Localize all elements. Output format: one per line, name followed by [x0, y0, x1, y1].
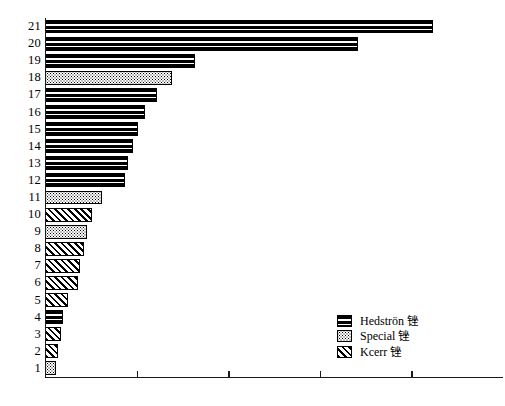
bar-17 — [45, 88, 157, 102]
bar-3 — [45, 327, 61, 341]
legend-swatch-diagonal-hatch-icon — [337, 346, 352, 358]
x-tick-1 — [137, 371, 138, 378]
y-tick-label-8: 8 — [1, 242, 41, 255]
bar-11 — [45, 191, 102, 205]
bar-row — [45, 293, 503, 308]
legend-item-2[interactable]: Special 锉 — [337, 329, 487, 345]
y-axis-line — [45, 18, 46, 378]
y-tick-label-16: 16 — [1, 106, 41, 119]
bar-row — [45, 104, 503, 119]
y-tick-label-10: 10 — [1, 208, 41, 221]
bar-row — [45, 70, 503, 85]
bar-row — [45, 241, 503, 256]
bar-row — [45, 258, 503, 273]
bar-row — [45, 19, 503, 34]
bar-row — [45, 361, 503, 376]
y-tick-label-7: 7 — [1, 259, 41, 272]
bar-5 — [45, 293, 68, 307]
y-tick-label-3: 3 — [1, 328, 41, 341]
x-axis-line — [45, 377, 503, 378]
bar-9 — [45, 225, 87, 239]
y-tick-label-1: 1 — [1, 362, 41, 375]
y-axis-tick-labels: 212019181716151413121110987654321 — [0, 18, 41, 377]
bar-2 — [45, 344, 58, 358]
bar-6 — [45, 276, 78, 290]
bar-16 — [45, 105, 145, 119]
y-tick-label-2: 2 — [1, 345, 41, 358]
y-tick-label-18: 18 — [1, 71, 41, 84]
bar-row — [45, 173, 503, 188]
x-tick-4 — [411, 371, 412, 378]
bar-4 — [45, 310, 63, 324]
legend-item-3[interactable]: Kcerr 锉 — [337, 344, 487, 360]
bar-row — [45, 87, 503, 102]
bar-14 — [45, 139, 133, 153]
bar-8 — [45, 242, 84, 256]
legend-swatch-stipple-icon — [337, 330, 352, 342]
y-tick-label-6: 6 — [1, 276, 41, 289]
y-tick-label-5: 5 — [1, 294, 41, 307]
y-tick-label-13: 13 — [1, 157, 41, 170]
bar-15 — [45, 122, 138, 136]
bar-row — [45, 224, 503, 239]
legend-label: Kcerr 锉 — [360, 345, 401, 359]
y-tick-label-15: 15 — [1, 123, 41, 136]
x-tick-2 — [228, 371, 229, 378]
y-tick-label-20: 20 — [1, 37, 41, 50]
bar-chart: 212019181716151413121110987654321 Hedstr… — [0, 0, 505, 406]
y-tick-label-9: 9 — [1, 225, 41, 238]
y-tick-label-4: 4 — [1, 311, 41, 324]
bar-19 — [45, 54, 195, 68]
bar-row — [45, 275, 503, 290]
bar-row — [45, 156, 503, 171]
x-tick-0 — [45, 371, 46, 378]
x-tick-3 — [320, 371, 321, 378]
bar-21 — [45, 20, 433, 34]
bar-row — [45, 190, 503, 205]
bar-10 — [45, 208, 92, 222]
bar-20 — [45, 37, 358, 51]
bar-row — [45, 53, 503, 68]
bar-row — [45, 207, 503, 222]
legend-item-1[interactable]: Hedströn 锉 — [337, 313, 487, 329]
bar-18 — [45, 71, 172, 85]
bar-row — [45, 139, 503, 154]
y-tick-label-19: 19 — [1, 54, 41, 67]
legend-swatch-horizontal-stripes-icon — [337, 315, 352, 327]
y-tick-label-14: 14 — [1, 140, 41, 153]
bar-7 — [45, 259, 80, 273]
y-tick-label-17: 17 — [1, 88, 41, 101]
bar-row — [45, 122, 503, 137]
bar-12 — [45, 173, 125, 187]
legend: Hedströn 锉Special 锉Kcerr 锉 — [337, 313, 487, 360]
bar-row — [45, 36, 503, 51]
bar-13 — [45, 156, 128, 170]
legend-label: Hedströn 锉 — [360, 314, 418, 328]
legend-label: Special 锉 — [360, 329, 409, 343]
y-tick-label-21: 21 — [1, 20, 41, 33]
bar-1 — [45, 361, 56, 375]
y-tick-label-11: 11 — [1, 191, 41, 204]
y-tick-label-12: 12 — [1, 174, 41, 187]
